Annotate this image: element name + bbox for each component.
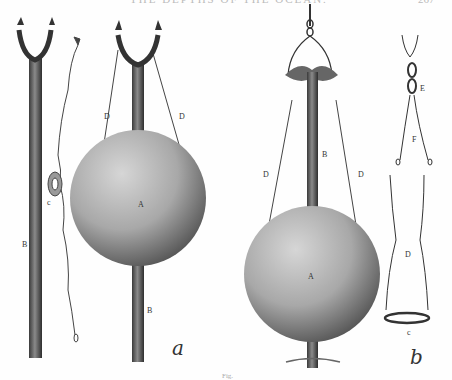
label-line-d-right-b: D (358, 170, 364, 179)
label-sphere-a-b: A (308, 272, 314, 281)
figure-label-a: a (172, 336, 184, 360)
label-line-d-right: D (179, 112, 185, 121)
figure-label-b: b (410, 345, 423, 369)
label-sling-loop-d: D (405, 250, 411, 259)
figure-caption-partial: Fig. (222, 372, 233, 380)
sounding-rod-b (244, 4, 380, 368)
label-ring-c: c (47, 198, 51, 207)
engraving-illustration (0, 0, 452, 380)
label-sphere-a: A (138, 200, 144, 209)
label-line-d-left: D (104, 112, 110, 121)
label-ring-c-b: c (407, 328, 411, 337)
label-rod-b-right: B (147, 306, 152, 315)
sounding-rod-a (70, 20, 206, 362)
slings-detail-b (385, 35, 432, 323)
label-slings-f: F (412, 135, 416, 144)
label-rod-b-left: B (22, 240, 27, 249)
label-shackle-e: E (420, 84, 425, 93)
label-line-d-left-b: D (263, 170, 269, 179)
label-rod-b-b: B (322, 150, 327, 159)
book-page: THE DEPTHS OF THE OCEAN. 267 (0, 0, 452, 380)
